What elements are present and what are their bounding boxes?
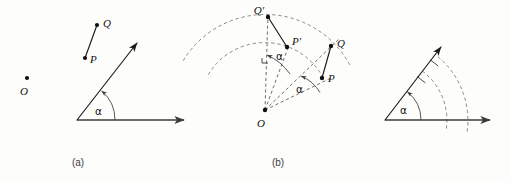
point-P-prime-marker-b [285, 45, 289, 49]
point-O-marker [25, 76, 29, 80]
angle-arc-c [407, 92, 421, 120]
point-O-marker-b [263, 108, 267, 112]
point-P-label-b: P [327, 72, 335, 84]
segment-vector-PQ-prime-b [268, 17, 287, 47]
tick-inner-c [417, 77, 425, 83]
point-Q-prime-label-b: Q′ [254, 4, 265, 16]
angle-label-alpha-upper-b: α [276, 50, 283, 62]
point-Q-label: Q [103, 17, 111, 29]
panel-b-caption: (b) [272, 157, 284, 168]
point-P-marker-b [320, 76, 324, 80]
tick-outer-c [430, 60, 438, 66]
point-Q-marker-b [329, 44, 333, 48]
panel-b: O P Q P′ Q′ α α (b) [183, 4, 350, 168]
point-Q-prime-marker-b [266, 15, 270, 19]
point-P-marker [83, 56, 87, 60]
panel-a-caption: (a) [72, 157, 84, 168]
point-P-prime-label-b: P′ [291, 35, 302, 47]
point-O-label-b: O [257, 117, 265, 129]
panel-c: α [385, 47, 490, 132]
point-P-label: P [89, 53, 97, 65]
geometry-figure: O P Q α (a) [0, 0, 510, 182]
figure-canvas: O P Q α (a) [0, 0, 510, 182]
point-O-label: O [20, 85, 28, 97]
radius-OQ-prime-b [265, 13, 268, 110]
angle-arc-a [102, 91, 116, 120]
panel-a: O P Q α (a) [20, 17, 184, 168]
point-Q-label-b: Q [337, 37, 345, 49]
right-angle-marker-b [262, 58, 268, 63]
angle-arc-alpha-lower-b [301, 76, 320, 93]
point-Q-marker [95, 23, 99, 27]
dashed-arc-inner-b [208, 43, 323, 78]
rotated-axis-ray-c [385, 47, 441, 120]
angle-label-alpha-lower-b: α [296, 83, 303, 95]
angle-label-alpha-a: α [95, 105, 102, 117]
angle-label-alpha-c: α [400, 104, 407, 116]
